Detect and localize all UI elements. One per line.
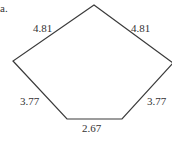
part-label: a. bbox=[0, 3, 8, 14]
side-label-top-right: 4.81 bbox=[131, 23, 150, 34]
side-label-top-left: 4.81 bbox=[33, 23, 52, 34]
side-label-bottom: 2.67 bbox=[82, 123, 101, 134]
side-label-bottom-left: 3.77 bbox=[20, 96, 39, 107]
side-label-bottom-right: 3.77 bbox=[147, 96, 166, 107]
